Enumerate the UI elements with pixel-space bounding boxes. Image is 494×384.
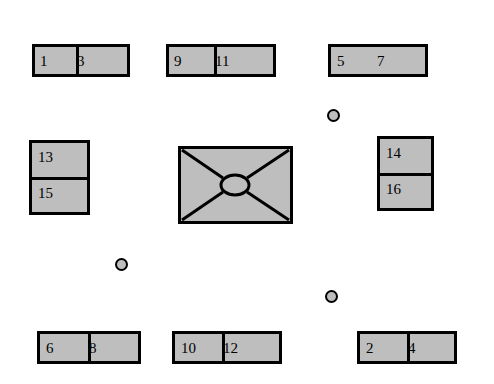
node-bottom-center[interactable]: 10 12	[172, 331, 282, 364]
node-label: 9	[174, 54, 182, 69]
node-divider	[380, 173, 431, 176]
node-label: 15	[38, 186, 53, 201]
hub-graphic	[178, 146, 293, 224]
node-label: 13	[38, 150, 53, 165]
node-top-right[interactable]: 5 7	[328, 44, 428, 77]
node-label: 16	[386, 182, 401, 197]
diagram-canvas: 1 3 9 11 5 7 13 15 14 16 6 8	[0, 0, 494, 384]
node-label: 6	[46, 341, 54, 356]
node-bottom-right[interactable]: 2 4	[357, 331, 457, 364]
node-right-middle[interactable]: 14 16	[377, 136, 434, 211]
node-top-center[interactable]: 9 11	[166, 44, 276, 77]
node-center-hub[interactable]	[178, 146, 293, 224]
dot-lower-right[interactable]	[325, 290, 338, 303]
dot-upper-right[interactable]	[327, 109, 340, 122]
node-label: 4	[408, 341, 416, 356]
node-divider	[32, 177, 87, 180]
node-label: 12	[223, 341, 238, 356]
node-label: 14	[386, 146, 401, 161]
node-label: 5	[337, 54, 345, 69]
node-left-middle[interactable]: 13 15	[29, 140, 90, 215]
node-top-left[interactable]: 1 3	[32, 44, 130, 77]
node-label: 2	[366, 341, 374, 356]
node-label: 3	[77, 54, 85, 69]
node-label: 11	[215, 54, 229, 69]
node-label: 8	[89, 341, 97, 356]
node-label: 7	[377, 54, 385, 69]
node-bottom-left[interactable]: 6 8	[37, 331, 141, 364]
node-label: 10	[181, 341, 196, 356]
dot-lower-left[interactable]	[115, 258, 128, 271]
node-label: 1	[40, 54, 48, 69]
